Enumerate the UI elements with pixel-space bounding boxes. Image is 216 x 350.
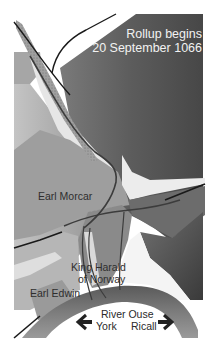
label-river-ouse: River Ouse [101,309,154,320]
label-york: York [96,321,117,332]
label-ricall: Ricall [131,321,157,332]
title-line-1: Rollup begins [92,27,202,41]
map-title: Rollup begins 20 September 1066 [92,27,202,55]
label-king-harald-2: of Norway [78,274,125,285]
title-line-2: 20 September 1066 [92,41,202,55]
label-earl-morcar: Earl Morcar [38,191,92,202]
label-earl-edwin: Earl Edwin [30,288,80,299]
label-king-harald-1: King Harald [71,262,126,273]
